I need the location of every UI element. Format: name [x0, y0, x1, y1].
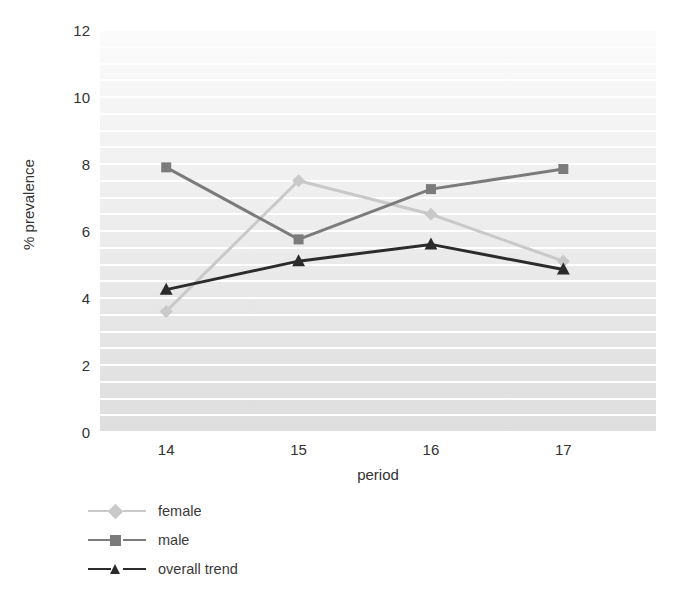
plot-area [100, 30, 656, 432]
x-tick-label: 15 [269, 441, 329, 458]
diamond-marker [424, 208, 437, 221]
triangle-icon [110, 564, 120, 574]
y-tick-label: 12 [50, 22, 90, 39]
x-tick-label: 17 [533, 441, 593, 458]
square-marker [426, 184, 436, 194]
square-icon [110, 535, 121, 546]
series-layer [100, 30, 656, 432]
y-tick-label: 8 [50, 156, 90, 173]
legend-swatch [88, 502, 146, 520]
series-line [166, 167, 563, 239]
x-axis-label: period [100, 466, 656, 483]
legend-item[interactable]: female [88, 496, 388, 525]
y-tick-label: 6 [50, 223, 90, 240]
legend-label: female [158, 503, 202, 519]
y-tick-label: 0 [50, 424, 90, 441]
series-overall-trend [160, 237, 570, 294]
legend-item[interactable]: overall trend [88, 554, 388, 583]
triangle-marker [425, 237, 438, 249]
square-marker [558, 164, 568, 174]
chart-legend: femalemaleoverall trend [88, 496, 388, 583]
y-tick-label: 10 [50, 89, 90, 106]
square-marker [161, 162, 171, 172]
series-male [161, 162, 568, 244]
x-tick-label: 16 [401, 441, 461, 458]
chart-figure: % prevalence 024681012 14151617 period f… [0, 0, 679, 591]
legend-swatch [88, 560, 146, 578]
legend-label: male [158, 532, 189, 548]
legend-label: overall trend [158, 561, 238, 577]
y-axis-label: % prevalence [20, 135, 37, 275]
x-tick-label: 14 [136, 441, 196, 458]
legend-swatch [88, 531, 146, 549]
y-tick-label: 4 [50, 290, 90, 307]
y-tick-label: 2 [50, 357, 90, 374]
square-marker [294, 234, 304, 244]
y-axis-tick-labels: 024681012 [45, 0, 90, 591]
legend-item[interactable]: male [88, 525, 388, 554]
